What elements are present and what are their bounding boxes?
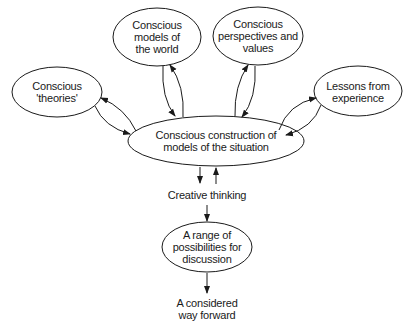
- label-line: models of: [113, 31, 201, 43]
- label-line: Conscious construction of: [136, 129, 296, 141]
- node-creative-label: Creative thinking: [157, 189, 257, 201]
- label-line: experience: [314, 92, 402, 104]
- label-line: possibilities for: [160, 241, 254, 253]
- label-line: Creative thinking: [157, 189, 257, 201]
- edge-central-to-theories: [101, 98, 136, 131]
- node-perspectives-label: Conscious perspectives and values: [208, 18, 308, 54]
- node-models-world-label: Conscious models of the world: [113, 19, 201, 55]
- node-forward-label: A considered way forward: [157, 297, 257, 321]
- label-line: Conscious: [113, 19, 201, 31]
- label-line: 'theories': [12, 92, 102, 104]
- edge-theories-to-central: [95, 106, 130, 134]
- label-line: the world: [113, 43, 201, 55]
- label-line: perspectives and: [208, 30, 308, 42]
- node-possibilities-label: A range of possibilities for discussion: [160, 229, 254, 265]
- label-line: Conscious: [208, 18, 308, 30]
- label-line: Conscious: [12, 80, 102, 92]
- label-line: Lessons from: [314, 80, 402, 92]
- node-lessons-label: Lessons from experience: [314, 80, 402, 104]
- node-central-label: Conscious construction of models of the …: [136, 129, 296, 153]
- edge-models-world-to-central: [163, 66, 175, 116]
- label-line: way forward: [157, 309, 257, 321]
- node-theories-label: Conscious 'theories': [12, 80, 102, 104]
- label-line: discussion: [160, 253, 254, 265]
- edge-central-to-models-world: [170, 65, 183, 117]
- label-line: models of the situation: [136, 141, 296, 153]
- label-line: A considered: [157, 297, 257, 309]
- label-line: A range of: [160, 229, 254, 241]
- label-line: values: [208, 42, 308, 54]
- edge-perspectives-to-central: [242, 66, 255, 117]
- diagram-canvas: [0, 0, 413, 329]
- edge-central-to-perspectives: [235, 65, 248, 116]
